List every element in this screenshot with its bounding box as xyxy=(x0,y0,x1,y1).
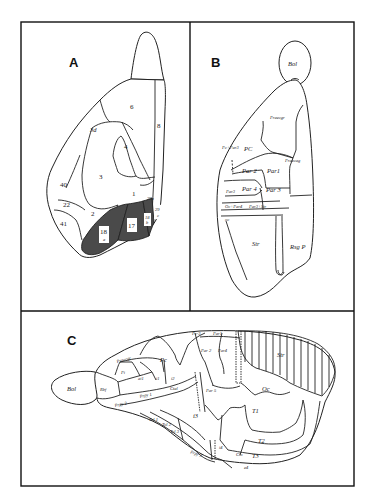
label-c-clo: Clo xyxy=(236,452,243,457)
label-c-t1: T1 xyxy=(252,407,259,414)
label-praecgr: Praecgr xyxy=(269,115,285,120)
label-area-17: 17 xyxy=(128,222,136,230)
label-area-3: 3 xyxy=(99,173,103,181)
label-c-bol: Bol xyxy=(67,385,76,392)
label-c-i3: i3 xyxy=(193,412,199,419)
label-pc: PC xyxy=(243,145,253,152)
label-par3-str: Par3+Str xyxy=(248,204,267,209)
label-area-3d: 3d xyxy=(89,126,97,133)
figure-three-panel-brain-maps: A 6 xyxy=(0,0,371,502)
label-c-pc3: Pc-3 xyxy=(191,331,201,336)
panel-b: B Bol Praecgr Pc+Pa xyxy=(211,41,314,297)
label-par3: Par 3 xyxy=(265,186,281,193)
label-rsgp: Rsg P xyxy=(289,243,305,250)
label-c-e4: e4 xyxy=(244,465,249,470)
label-str: Str xyxy=(252,240,260,247)
label-pc-par3: Pc+Par3 xyxy=(221,145,240,150)
label-par1: Par1 xyxy=(266,167,280,174)
panel-a-top-lobe xyxy=(131,32,164,80)
panel-a-letter: A xyxy=(69,55,79,70)
panel-c: C xyxy=(51,331,335,470)
label-c-tol1: Tol 1 xyxy=(149,417,158,422)
label-oc-par4: Oc+Par4 xyxy=(225,204,243,209)
panel-a: A 6 xyxy=(47,32,166,257)
label-c-par5: Par 5 xyxy=(205,388,217,393)
label-c-str: Str xyxy=(277,351,285,358)
label-c-par4: Par4 xyxy=(217,348,228,353)
label-oc: oc xyxy=(225,217,229,222)
label-c-pi: Pi xyxy=(120,370,126,375)
label-area-22: 22 xyxy=(63,201,71,209)
label-c-t3: T3 xyxy=(252,452,260,459)
panel-b-letter: B xyxy=(211,55,220,70)
label-praecag: Praecag xyxy=(284,158,301,163)
label-area-29c-letter: c xyxy=(157,213,159,218)
label-area-29c-number: 29 xyxy=(155,207,160,212)
label-c-ctal: Ctal xyxy=(170,386,179,391)
label-area-29a: 29a xyxy=(147,196,155,201)
label-bol: Bol xyxy=(288,60,297,67)
label-area-2: 2 xyxy=(91,210,95,218)
label-c-rbf: Rbf xyxy=(99,387,107,392)
label-par3-small: Par3 xyxy=(225,189,236,194)
label-c-t2: T2 xyxy=(258,437,266,444)
label-par2: Par 2 xyxy=(241,167,257,174)
label-c-i1: i1 xyxy=(156,376,160,381)
label-c-ai1: ai1 xyxy=(138,376,144,381)
label-c-par1: Par1 xyxy=(212,331,222,336)
label-c-pc: Pc xyxy=(159,356,167,363)
label-area-40: 40 xyxy=(60,181,68,189)
label-area-18a-number: 18 xyxy=(100,228,108,236)
panel-c-letter: C xyxy=(67,333,77,348)
label-area-4: 4 xyxy=(124,143,128,151)
label-area-6: 6 xyxy=(130,103,134,111)
label-c-tol3: Tol 3 xyxy=(170,429,180,434)
label-area-1: 1 xyxy=(132,190,136,198)
label-area-41: 41 xyxy=(60,220,68,228)
label-par4: Par 4 xyxy=(241,185,257,192)
label-area-8: 8 xyxy=(157,122,161,130)
label-c-oc: Oc xyxy=(262,385,270,392)
label-c-par2: Par 2 xyxy=(200,348,212,353)
label-c-tol2: Tol 2 xyxy=(162,422,172,427)
